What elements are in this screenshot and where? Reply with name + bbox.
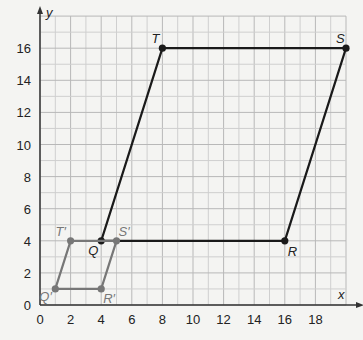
- coordinate-plane-chart: xy 0246810121416180246810121416 QRSTQ′R′…: [0, 0, 363, 340]
- point-label: R: [288, 244, 297, 259]
- x-tick-label: 10: [186, 312, 200, 327]
- point-label: S′: [119, 224, 131, 239]
- x-axis-arrow-icon: [356, 302, 363, 308]
- x-tick-label: 8: [159, 312, 166, 327]
- y-tick-label: 14: [17, 73, 31, 88]
- y-tick-label: 16: [17, 41, 31, 56]
- y-tick-label: 2: [24, 266, 31, 281]
- y-tick-label: 10: [17, 138, 31, 153]
- x-tick-label: 12: [216, 312, 230, 327]
- y-tick-label: 0: [24, 298, 31, 313]
- vertex-point: [67, 237, 74, 244]
- y-tick-label: 6: [24, 202, 31, 217]
- point-label: Q: [88, 243, 98, 258]
- y-tick-label: 12: [17, 105, 31, 120]
- x-tick-label: 18: [308, 312, 322, 327]
- point-label: R′: [103, 291, 115, 306]
- vertex-point: [52, 285, 59, 292]
- x-tick-label: 14: [247, 312, 261, 327]
- grid-lines: [40, 16, 346, 305]
- x-tick-label: 4: [98, 312, 105, 327]
- x-tick-label: 2: [67, 312, 74, 327]
- point-label: T′: [56, 224, 67, 239]
- y-axis-arrow-icon: [37, 6, 43, 14]
- point-label: Q′: [39, 289, 52, 304]
- y-axis-label: y: [45, 5, 54, 20]
- x-tick-label: 0: [36, 312, 43, 327]
- y-tick-label: 8: [24, 170, 31, 185]
- x-axis-label: x: [337, 287, 345, 302]
- point-label: T: [151, 31, 160, 46]
- point-label: S: [336, 31, 345, 46]
- point-labels: QRSTQ′R′S′T′: [39, 31, 345, 306]
- vertex-point: [159, 45, 166, 52]
- x-tick-label: 16: [278, 312, 292, 327]
- y-tick-label: 4: [24, 234, 31, 249]
- tick-labels: 0246810121416180246810121416: [17, 41, 323, 327]
- x-tick-label: 6: [128, 312, 135, 327]
